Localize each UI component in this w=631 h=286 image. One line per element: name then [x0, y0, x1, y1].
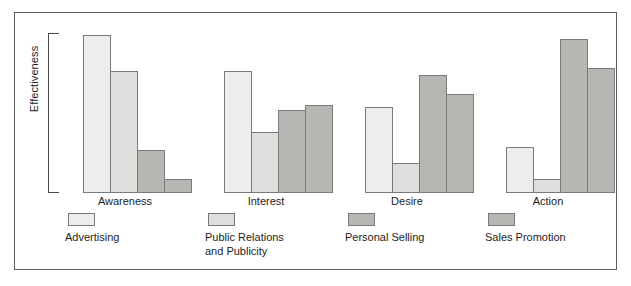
bar-desire-series-1	[365, 107, 393, 193]
legend-item-personal-selling[interactable]: Personal Selling	[345, 213, 425, 245]
category-label-interest: Interest	[216, 195, 316, 207]
plot-area	[69, 33, 599, 193]
bar-interest-series-2	[251, 132, 279, 193]
bar-interest-series-1	[224, 71, 252, 193]
legend-label: Public Relationsand Publicity	[205, 231, 284, 258]
bar-desire-series-4	[446, 94, 474, 193]
legend-item-advertising[interactable]: Advertising	[65, 213, 119, 245]
legend-label: Advertising	[65, 231, 119, 245]
category-label-desire: Desire	[357, 195, 457, 207]
legend-swatch-icon	[68, 213, 95, 226]
legend-label: Sales Promotion	[485, 231, 566, 245]
bar-action-series-2	[533, 179, 561, 193]
bar-awareness-series-3	[137, 150, 165, 193]
bar-desire-series-3	[419, 75, 447, 193]
category-label-action: Action	[498, 195, 598, 207]
bar-awareness-series-1	[83, 35, 111, 193]
category-label-awareness: Awareness	[75, 195, 175, 207]
y-axis-bracket	[48, 33, 59, 193]
bar-group-action	[506, 33, 618, 193]
legend-label: Personal Selling	[345, 231, 425, 245]
legend-swatch-icon	[348, 213, 375, 226]
bar-group-desire	[365, 33, 477, 193]
bar-awareness-series-4	[164, 179, 192, 193]
bar-interest-series-4	[305, 105, 333, 193]
chart-page: Effectiveness AwarenessInterestDesireAct…	[0, 0, 631, 286]
bar-desire-series-2	[392, 163, 420, 193]
bar-group-interest	[224, 33, 336, 193]
bar-action-series-1	[506, 147, 534, 193]
bar-group-awareness	[83, 33, 195, 193]
y-axis-label: Effectiveness	[28, 29, 40, 129]
legend-swatch-icon	[208, 213, 235, 226]
legend-swatch-icon	[488, 213, 515, 226]
chart-legend: AdvertisingPublic Relationsand Publicity…	[15, 213, 618, 271]
chart-frame: Effectiveness AwarenessInterestDesireAct…	[14, 12, 617, 270]
bar-action-series-4	[587, 68, 615, 193]
bar-action-series-3	[560, 39, 588, 193]
legend-item-public-relations-and-publicity[interactable]: Public Relationsand Publicity	[205, 213, 284, 258]
bar-interest-series-3	[278, 110, 306, 193]
legend-item-sales-promotion[interactable]: Sales Promotion	[485, 213, 566, 245]
bar-awareness-series-2	[110, 71, 138, 193]
